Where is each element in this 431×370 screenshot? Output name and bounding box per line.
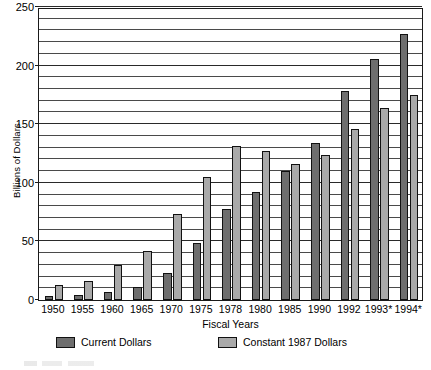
bar (252, 192, 261, 300)
bar (262, 151, 271, 300)
bar-group (276, 9, 306, 300)
bar (104, 292, 113, 300)
bar (321, 155, 330, 300)
x-axis-tick-label: 1994* (389, 303, 427, 316)
legend-label: Constant 1987 Dollars (243, 336, 347, 348)
bar (351, 129, 360, 300)
legend-label: Current Dollars (81, 336, 152, 348)
bar (84, 281, 93, 300)
bar (232, 146, 241, 300)
bar (143, 251, 152, 300)
y-axis-tick-label: 0 (8, 295, 34, 306)
y-axis-tick-label: 250 (8, 2, 34, 13)
y-axis-tick-mark (35, 65, 39, 66)
y-axis-tick-label: 200 (8, 61, 34, 72)
bar (380, 108, 389, 300)
bar-group (394, 9, 424, 300)
bar-group (187, 9, 217, 300)
bar-group (335, 9, 365, 300)
plot-area (38, 8, 423, 301)
y-axis-tick-mark (35, 182, 39, 183)
bar-group (98, 9, 128, 300)
bar (370, 59, 379, 300)
bar-group (39, 9, 69, 300)
bar (222, 209, 231, 300)
gridline-major (39, 6, 422, 7)
legend-item: Constant 1987 Dollars (218, 336, 347, 348)
y-axis-tick-mark (35, 299, 39, 300)
y-axis-tick-mark (35, 123, 39, 124)
bar (173, 214, 182, 300)
bar (291, 164, 300, 300)
scan-artifact (24, 361, 94, 366)
chart-legend: Current DollarsConstant 1987 Dollars (38, 336, 423, 354)
bar-group (306, 9, 336, 300)
x-axis-tick-labels: 1950195519601965197019751978198019851990… (38, 303, 423, 319)
bar (74, 295, 83, 300)
legend-item: Current Dollars (56, 336, 152, 348)
bar-group (69, 9, 99, 300)
y-axis-tick-label: 50 (8, 236, 34, 247)
bar (133, 287, 142, 300)
bar (341, 91, 350, 300)
bar-group (365, 9, 395, 300)
bar (193, 243, 202, 300)
bar (311, 143, 320, 300)
bar-group (128, 9, 158, 300)
bar (45, 296, 54, 300)
bar (55, 285, 64, 300)
y-axis-tick-labels: 050100150200250 (0, 0, 34, 310)
y-axis-tick-mark (35, 240, 39, 241)
bar (114, 265, 123, 300)
bar-group (157, 9, 187, 300)
bar (163, 273, 172, 300)
y-axis-tick-label: 150 (8, 119, 34, 130)
bar-chart-figure: Billions of Dollars 050100150200250 1950… (0, 0, 431, 370)
legend-swatch (218, 337, 237, 348)
bar-group (246, 9, 276, 300)
bar-group (217, 9, 247, 300)
x-axis-title: Fiscal Years (38, 318, 423, 330)
bar (203, 177, 212, 300)
bar (281, 171, 290, 300)
bar (400, 34, 409, 300)
bar-series-container (39, 9, 422, 300)
y-axis-tick-mark (35, 6, 39, 7)
y-axis-tick-label: 100 (8, 178, 34, 189)
legend-swatch (56, 337, 75, 348)
bar (410, 95, 419, 300)
